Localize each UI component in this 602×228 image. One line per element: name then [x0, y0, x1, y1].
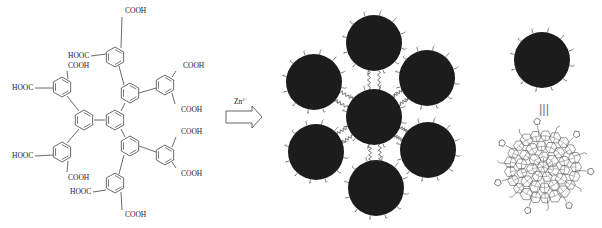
- group-label: COOH: [68, 173, 90, 182]
- nanoparticle-4: [345, 155, 409, 219]
- group-label: COOH: [181, 105, 203, 114]
- linker: [368, 144, 371, 161]
- group-label: COOH: [181, 127, 203, 136]
- group-label: COOH: [183, 61, 205, 70]
- single-nanoparticle: [511, 27, 575, 91]
- group-label: COOH: [68, 61, 90, 70]
- nanoparticle-6: [283, 49, 347, 113]
- nanoparticle-single: [511, 27, 575, 91]
- linker: [378, 144, 381, 161]
- linker: [337, 126, 348, 135]
- dendrimer-network-structure: [495, 118, 595, 214]
- figure-canvas: COOHHOOCCOOHCOOHCOOHHOOCHOOCCOOHCOOHCOOH…: [0, 0, 602, 228]
- group-label: HOOC: [70, 187, 91, 196]
- group-label: HOOC: [68, 51, 89, 60]
- dendrimer-ligand-structure: COOHHOOCCOOHCOOHCOOHHOOCHOOCCOOHCOOHCOOH…: [12, 6, 205, 219]
- linker: [334, 100, 348, 108]
- reaction-arrow: Zn2+: [226, 97, 262, 128]
- reagent-label: Zn2+: [234, 97, 248, 106]
- group-label: COOH: [125, 6, 147, 15]
- equivalence-symbol: |||: [539, 101, 549, 116]
- nanoparticle-assembly: [283, 10, 461, 219]
- nanoparticle-3: [397, 117, 461, 181]
- group-label: HOOC: [12, 151, 33, 160]
- group-label: COOH: [181, 169, 203, 178]
- group-label: HOOC: [12, 83, 33, 92]
- linker: [393, 89, 402, 98]
- nanoparticle-5: [285, 119, 349, 183]
- nanoparticle-1: [343, 10, 407, 74]
- group-label: COOH: [125, 210, 147, 219]
